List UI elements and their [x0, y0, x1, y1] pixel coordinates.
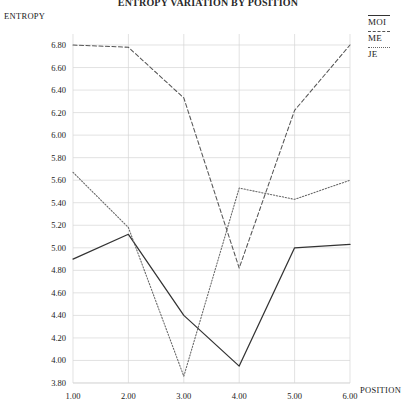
plot-area — [0, 0, 416, 411]
legend-label-je: JE — [368, 49, 378, 59]
chart-container: ENTROPY VARIATION BY POSITION ENTROPY PO… — [0, 0, 416, 411]
legend-item-je: JE — [368, 46, 414, 62]
chart-legend: MOI ME JE — [368, 14, 414, 62]
legend-item-moi: MOI — [368, 14, 414, 30]
legend-label-moi: MOI — [368, 17, 386, 27]
series-line-moi — [73, 234, 350, 366]
gridlines — [73, 34, 350, 383]
legend-item-me: ME — [368, 30, 414, 46]
legend-label-me: ME — [368, 33, 382, 43]
series-line-me — [73, 45, 350, 268]
